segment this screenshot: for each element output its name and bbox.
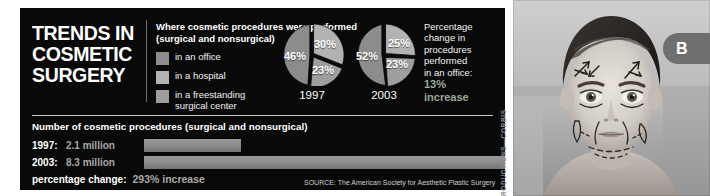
bar-track-2003 [144,156,505,169]
percentage-change-callout: Percentage change in procedures performe… [424,21,502,103]
pie-chart-1997: 46% 30% 23% 1997 [278,24,346,101]
page-title: TRENDS IN COSMETIC SURGERY [32,22,140,85]
bar-year-2003: 2003: [32,157,66,168]
photo-credit: RODUCTIONS—CORBIS [500,28,512,196]
bar-value-1997: 2.1 million [66,140,144,151]
bar-row-1997: 1997: 2.1 million [32,138,505,153]
legend-label-hospital: in a hospital [175,70,226,81]
legend-item-hospital: in a hospital [156,70,276,84]
pie-year-1997: 1997 [278,89,346,101]
legend-item-surgical-center: in a freestanding surgical center [156,89,276,111]
bar-section-heading: Number of cosmetic procedures (surgical … [32,121,505,132]
legend-label-office: in an office [175,51,221,62]
pie-slice-label-2003-office: 52% [356,50,378,62]
callout-line-1: Percentage [424,21,502,32]
pie-chart-group: 46% 30% 23% 1997 [278,24,418,112]
infographic-panel: TRENDS IN COSMETIC SURGERY Where cosmeti… [20,8,505,190]
legend-swatch-hospital [156,71,169,84]
callout-line-2: change in [424,32,502,43]
bar-fill-1997 [144,139,241,152]
bar-track-1997 [144,139,505,152]
infographic-page: TRENDS IN COSMETIC SURGERY Where cosmeti… [0,0,710,196]
callout-line-4: performed [424,55,502,66]
pie-chart-2003: 52% 25% 23% 2003 [350,24,418,101]
legend-swatch-office [156,52,169,65]
procedures-bar-section: Number of cosmetic procedures (surgical … [32,121,505,185]
percentage-change-value: 293% increase [132,173,204,185]
panel-top-row: TRENDS IN COSMETIC SURGERY Where cosmeti… [20,8,505,114]
bar-year-1997: 1997: [32,140,66,151]
badge-letter: B [676,41,688,57]
title-line-2: COSMETIC [32,43,132,64]
title-line-3: SURGERY [32,64,132,85]
pie-slice-label-2003-hospital: 25% [388,37,410,49]
cosmetic-surgery-photo [513,0,710,196]
legend-item-list: in an office in a hospital in a freestan… [156,51,276,111]
pie-slice-label-1997-office: 46% [284,50,306,62]
pie-slice-label-1997-hospital: 30% [314,38,336,50]
pie-slice-label-1997-center: 23% [312,64,334,76]
legend-label-surgical-center: in a freestanding surgical center [175,89,245,111]
callout-line-3: procedures [424,44,502,55]
vertical-divider [146,20,147,102]
percentage-change-label: percentage change: [32,174,126,185]
section-divider [32,115,493,116]
legend-item-office: in an office [156,51,276,65]
figure-badge-b: B [663,33,710,64]
callout-highlight-word: increase [424,91,502,104]
callout-highlight-value: 13% [424,78,502,91]
bar-value-2003: 8.3 million [66,157,144,168]
callout-line-5: in an office: [424,67,502,78]
title-line-1: TRENDS IN [32,22,132,43]
legend-swatch-surgical-center [156,90,169,103]
bar-row-2003: 2003: 8.3 million [32,155,505,170]
pie-slice-label-2003-center: 23% [386,58,408,70]
bar-fill-2003 [144,156,505,169]
pie-year-2003: 2003 [350,89,418,101]
chart-legend: Where cosmetic procedures were performed… [156,21,276,116]
source-note: SOURCE: The American Society for Aesthet… [304,179,495,186]
